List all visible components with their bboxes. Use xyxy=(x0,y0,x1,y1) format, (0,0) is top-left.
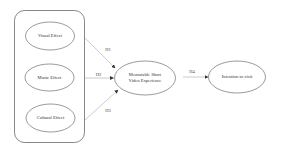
edge-h1-label: H1 xyxy=(105,47,111,52)
node-music-effect-label: Music Effect xyxy=(38,74,62,80)
diagram-canvas: Visual Effect Music Effect Cultural Effe… xyxy=(0,0,281,150)
edge-h4-label: H4 xyxy=(189,68,195,73)
edge-h3-label: H3 xyxy=(105,108,111,113)
node-msve-label-line2: Video Experience xyxy=(129,78,162,84)
node-intention-to-visit-label: Intention to visit xyxy=(222,74,252,80)
edge-h1-arrow xyxy=(85,38,115,68)
edge-h2-label: H2 xyxy=(96,72,102,77)
node-cultural-effect-label: Cultural Effect xyxy=(37,115,64,121)
edge-h3-arrow xyxy=(85,90,118,120)
node-visual-effect-label: Visual Effect xyxy=(38,33,62,39)
node-memorable-short-video-experience-label: Memorable Short Video Experience xyxy=(129,72,162,84)
